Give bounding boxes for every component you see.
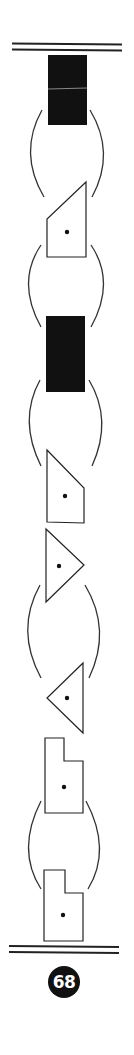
- trapezoid-shape-2: [47, 450, 84, 523]
- step-shape-1: [45, 738, 83, 813]
- bottom-double-rule: [9, 946, 119, 953]
- grouping-arcs-4: [28, 585, 100, 678]
- trapezoid-shape-1: [47, 182, 86, 257]
- step-shape-2: [44, 870, 83, 941]
- right-triangle-shape: [46, 529, 84, 602]
- puzzle-figure: [0, 0, 134, 1055]
- top-double-rule: [12, 44, 122, 51]
- filled-rectangle-1: [48, 55, 87, 125]
- grouping-arcs-3: [29, 380, 102, 466]
- filled-rectangle-2: [46, 316, 85, 392]
- page-number-badge: 68: [48, 966, 80, 998]
- left-triangle-shape: [47, 663, 83, 733]
